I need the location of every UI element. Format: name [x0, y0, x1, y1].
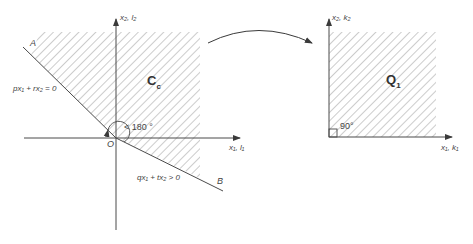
region-label-q1: Q1 [386, 72, 401, 90]
angle-label: < 180 ° [124, 122, 153, 132]
right-x-axis-label: x₁, k₁ [441, 143, 459, 152]
left-y-axis-label: x₂, l₂ [120, 13, 136, 22]
point-a-label: A [30, 38, 36, 48]
origin-label: O [107, 139, 114, 149]
point-b-label: B [217, 176, 223, 186]
line-b-inequality: qx₁ + tx₂ > 0 [137, 173, 180, 182]
region-label-cc: Cc [147, 73, 161, 91]
region-label-cc-sub: c [156, 82, 160, 91]
diagram-canvas [0, 0, 473, 244]
region-label-cc-main: C [147, 73, 156, 88]
region-label-q1-main: Q [386, 72, 396, 87]
right-angle-label: 90° [340, 121, 354, 131]
region-label-q1-sub: 1 [396, 81, 400, 90]
left-x-axis-label: x₁, l₁ [229, 143, 244, 152]
mapping-arrow-icon [208, 31, 312, 44]
right-y-axis-label: x₂, k₂ [332, 13, 351, 22]
line-a-equation: px₁ + rx₂ = 0 [13, 84, 56, 93]
